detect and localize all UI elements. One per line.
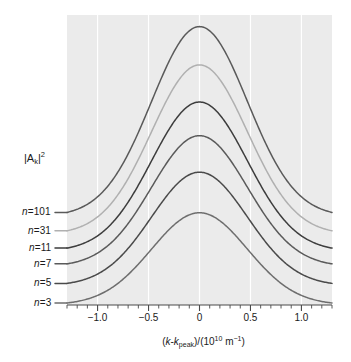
series-label-n-5: n=5 [34,277,51,288]
series-label-n-31: n=31 [28,225,51,236]
x-tick-label-0: −1.0 [88,312,108,323]
x-tick-label-1: −0.5 [139,312,159,323]
x-tick-label-3: 0.5 [244,312,258,323]
series-label-value: 101 [34,206,51,217]
x-axis-label-exponent: 10 [215,335,223,342]
x-tick-label-4: 1.0 [294,312,308,323]
series-label-value: 3 [46,297,52,308]
series-label-n-3: n=3 [34,297,51,308]
x-axis-label-divisor: )/(10 [194,336,215,347]
series-label-value: 31 [40,225,51,236]
x-axis-label-unit: m [222,336,233,347]
series-label-n-11: n=11 [29,242,51,253]
x-axis-label-unit-exponent: −1 [234,335,242,342]
series-label-value: 11 [41,242,52,253]
y-axis-label-subscript: k [34,157,38,166]
y-axis-label-bar-open: |A [24,152,34,164]
y-axis-label-superscript: 2 [41,150,45,159]
series-legend: n=101n=31n=11n=7n=5n=3 [0,0,351,362]
x-tick-label-2: 0 [197,312,203,323]
x-axis-label: (k-kpeak)/(1010 m−1) [0,336,351,347]
series-label-value: 7 [46,258,52,269]
y-axis-label: |Ak|2 [24,152,45,164]
series-label-n-7: n=7 [34,258,51,269]
series-label-value: 5 [46,277,52,288]
x-axis-label-tail: ) [241,336,244,347]
x-axis-label-k2-subscript: peak [179,341,194,348]
series-label-n-101: n=101 [22,206,51,217]
chart-figure: n=101n=31n=11n=7n=5n=3 −1.0−0.500.51.0 |… [0,0,351,362]
